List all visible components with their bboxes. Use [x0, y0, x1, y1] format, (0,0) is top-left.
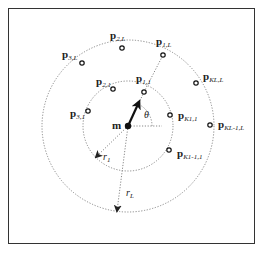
point-p21	[111, 87, 115, 91]
center-label: m	[112, 119, 121, 131]
diagram-canvas: p1,1p2,1p3,1pK1,1pK1-1,1p1,Lp2,Lp3,LpKL,…	[0, 0, 266, 255]
center-point	[125, 123, 131, 129]
point-pKLL	[194, 81, 198, 85]
point-p2L	[120, 46, 124, 50]
label-pK11: pK1,1	[178, 109, 198, 123]
label-pKL1L: pKL-1,L	[218, 118, 244, 132]
point-p11	[142, 90, 146, 94]
point-p3L	[80, 61, 84, 65]
r1-label: r1	[103, 151, 110, 164]
rL-label: rL	[126, 187, 134, 200]
point-p1L	[161, 53, 165, 57]
label-p3L: p3,L	[62, 48, 77, 62]
point-p31	[86, 109, 90, 113]
label-p2L: p2,L	[110, 29, 125, 43]
label-p11: p1,1	[136, 72, 151, 86]
theta-label: θ	[144, 109, 149, 120]
point-pKL1L	[208, 123, 212, 127]
label-pKLL: pKL,L	[203, 70, 223, 84]
point-pK11	[168, 113, 172, 117]
label-p1L: p1,L	[156, 35, 171, 49]
label-p31: p3,1	[70, 107, 85, 121]
radial-guide	[144, 55, 163, 92]
point-pK111	[167, 148, 171, 152]
label-pK111: pK1-1,1	[177, 147, 202, 161]
direction-arrow	[128, 102, 139, 126]
rL-arrow	[117, 126, 128, 211]
label-p21: p2,1	[96, 75, 111, 89]
points-layer	[80, 46, 212, 152]
